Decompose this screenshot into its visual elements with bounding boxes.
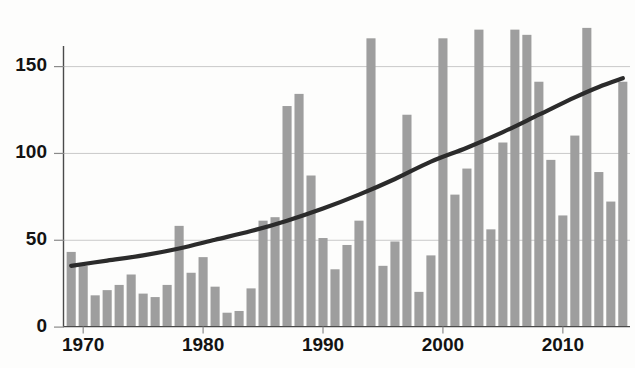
bar-2001 [450,195,459,327]
y-tick-label-100: 100 [15,141,47,162]
bar-2002 [462,169,471,327]
bar-1981 [211,287,220,327]
x-axis-ticks: 19701980199020002010 [62,327,584,356]
bar-2010 [558,215,567,326]
bar-1971 [91,295,100,326]
bar-1992 [342,245,351,327]
x-tick-label-1970: 1970 [62,334,104,355]
bar-1985 [259,221,268,327]
bar-1994 [366,38,375,326]
bar-1990 [318,238,327,327]
bar-1984 [247,288,256,326]
bar-1976 [151,297,160,327]
x-tick-label-1990: 1990 [302,334,344,355]
bar-1983 [235,311,244,327]
bar-1979 [187,273,196,327]
bar-1982 [223,313,232,327]
bar-1974 [127,275,136,327]
bar-2007 [522,35,531,327]
bar-2015 [618,82,627,327]
y-tick-label-0: 0 [36,315,47,336]
bar-1988 [294,94,303,327]
bar-1995 [378,266,387,327]
x-tick-label-2010: 2010 [542,334,584,355]
bar-2009 [546,160,555,327]
y-tick-label-150: 150 [15,54,47,75]
bar-1996 [390,242,399,327]
bar-2013 [594,172,603,327]
bar-1989 [306,176,315,327]
bar-1986 [270,217,279,326]
y-tick-label-50: 50 [26,228,47,249]
bar-2012 [582,28,591,327]
bar-series [67,28,628,327]
bar-2011 [570,136,579,327]
bar-1998 [414,292,423,327]
bar-1987 [282,106,291,327]
bar-1977 [163,285,172,327]
bar-2004 [486,229,495,326]
bar-1991 [330,269,339,326]
chart-canvas: 050100150 19701980199020002010 [0,0,635,368]
bar-1972 [103,290,112,326]
bar-1973 [115,285,124,327]
bar-1980 [199,257,208,326]
bar-2006 [510,30,519,327]
y-axis-ticks: 050100150 [15,54,64,336]
gridlines [64,67,630,241]
bar-1975 [139,294,148,327]
bar-2003 [474,30,483,327]
bar-2005 [498,143,507,327]
bar-2014 [606,202,615,327]
bar-1993 [354,221,363,327]
bar-1997 [402,115,411,327]
bar-1969 [67,252,76,327]
bar-1970 [79,266,88,327]
bar-1999 [426,255,435,326]
bar-2000 [438,38,447,326]
x-tick-label-2000: 2000 [422,334,464,355]
x-tick-label-1980: 1980 [182,334,224,355]
bar-1978 [175,226,184,327]
bar-chart-figure: 050100150 19701980199020002010 [0,0,635,368]
